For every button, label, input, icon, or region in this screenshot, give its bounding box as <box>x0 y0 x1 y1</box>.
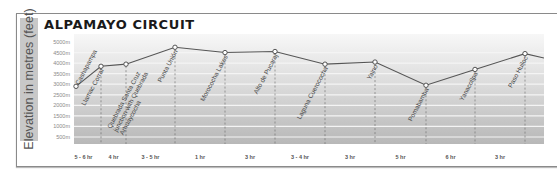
waypoint-marker <box>473 67 477 71</box>
waypoint-marker <box>223 50 227 54</box>
plot-area <box>74 34 544 144</box>
y-tick-label: 2000m <box>53 102 70 108</box>
segment-duration: 1 hr <box>195 154 206 160</box>
y-tick-label: 3500m <box>53 71 70 77</box>
waypoint-marker <box>273 49 277 53</box>
waypoint-marker <box>124 62 128 66</box>
segment-duration: 5 hr <box>395 154 406 160</box>
waypoint-marker <box>173 45 177 49</box>
y-ticks: 5000m4500m4000m3500m3000m2500m2000m1500m… <box>53 39 70 140</box>
y-tick-label: 4000m <box>53 60 70 66</box>
y-tick-label: 4500m <box>53 50 70 56</box>
segment-duration: 3 - 5 hr <box>141 154 160 160</box>
waypoint-marker <box>99 64 103 68</box>
segment-durations: 5 - 6 hr4 hr3 - 5 hr1 hr3 hr3 - 4 hr3 hr… <box>74 154 505 160</box>
y-tick-label: 2500m <box>53 92 70 98</box>
waypoint-marker <box>523 51 527 55</box>
waypoint-marker <box>424 83 428 87</box>
segment-duration: 3 hr <box>345 154 356 160</box>
segment-duration: 6 hr <box>445 154 456 160</box>
segment-duration: 3 - 4 hr <box>291 154 310 160</box>
y-tick-label: 5000m <box>53 39 70 45</box>
segment-duration: 3 hr <box>495 154 506 160</box>
y-tick-label: 3000m <box>53 81 70 87</box>
y-tick-label: 1000m <box>53 123 70 129</box>
waypoint-marker <box>323 62 327 66</box>
waypoint-marker <box>373 60 377 64</box>
segment-duration: 4 hr <box>108 154 119 160</box>
segment-duration: 3 hr <box>245 154 256 160</box>
y-tick-label: 1500m <box>53 113 70 119</box>
segment-duration: 5 - 6 hr <box>74 154 93 160</box>
y-tick-label: 500m <box>56 134 70 140</box>
